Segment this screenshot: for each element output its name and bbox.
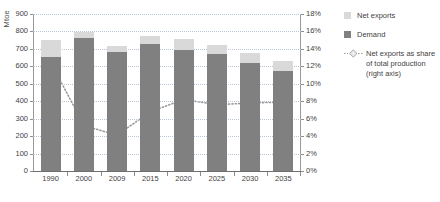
bar-segment-net-exports[interactable]	[207, 45, 227, 54]
y-axis-tick-label: 800	[15, 27, 28, 35]
y2-axis-tick	[301, 154, 304, 155]
y-axis-tick-label: 0	[24, 167, 28, 175]
legend-label-net-exports-share: Net exports as share of total production…	[366, 49, 435, 79]
y-axis-title: Mtoe	[2, 10, 11, 27]
y2-axis-tick-label: 8%	[306, 97, 317, 105]
y-axis-tick-label: 600	[15, 62, 28, 70]
y2-axis-tick	[301, 66, 304, 67]
y2-axis-tick	[301, 14, 304, 15]
y-axis-tick-label: 700	[15, 45, 28, 53]
left-axis-line	[33, 14, 34, 172]
bar-segment-net-exports[interactable]	[107, 46, 127, 52]
y-axis-tick	[30, 31, 33, 32]
bar-segment-demand[interactable]	[240, 63, 260, 171]
y2-axis-tick	[301, 84, 304, 85]
y-axis-tick	[30, 171, 33, 172]
y2-axis-tick-label: 12%	[306, 62, 321, 70]
bar-segment-demand[interactable]	[74, 38, 94, 171]
bar-group[interactable]	[107, 46, 127, 171]
plot-area: 01002003004005006007008009000%2%4%6%8%10…	[33, 14, 301, 172]
legend-marker-diamond-icon	[344, 49, 363, 58]
bar-segment-demand[interactable]	[174, 50, 194, 171]
legend-item-net-exports: Net exports	[344, 11, 438, 21]
legend-label-demand: Demand	[357, 30, 385, 40]
legend-label-line-3: (right axis)	[366, 69, 401, 78]
bar-segment-demand[interactable]	[140, 44, 160, 171]
legend-swatch-demand	[344, 31, 351, 38]
right-axis-line	[300, 14, 301, 172]
bar-segment-net-exports[interactable]	[240, 53, 260, 63]
legend-label-line-2: of total production	[366, 59, 426, 68]
y2-axis-tick-label: 2%	[306, 150, 317, 158]
y-axis-tick	[30, 136, 33, 137]
y2-axis-tick-label: 16%	[306, 27, 321, 35]
bar-group[interactable]	[174, 39, 194, 171]
y-axis-tick	[30, 101, 33, 102]
legend-label-net-exports: Net exports	[357, 11, 395, 21]
gridline	[33, 14, 301, 15]
y2-axis-tick	[301, 136, 304, 137]
chart-container: Mtoe 01002003004005006007008009000%2%4%6…	[0, 0, 440, 202]
x-axis-tick-label: 2035	[263, 175, 303, 183]
y2-axis-tick-label: 6%	[306, 115, 317, 123]
bar-segment-net-exports[interactable]	[74, 32, 94, 38]
bar-group[interactable]	[240, 53, 260, 171]
y-axis-tick-label: 900	[15, 10, 28, 18]
y2-axis-tick	[301, 101, 304, 102]
chart-legend: Net exports Demand Net exports as share …	[344, 11, 438, 88]
y2-axis-tick-label: 14%	[306, 45, 321, 53]
y-axis-tick	[30, 49, 33, 50]
legend-swatch-net-exports	[344, 12, 351, 19]
legend-item-net-exports-share: Net exports as share of total production…	[344, 49, 438, 79]
y-axis-tick-label: 100	[15, 150, 28, 158]
y-axis-tick	[30, 119, 33, 120]
bar-segment-demand[interactable]	[41, 57, 61, 171]
bar-group[interactable]	[140, 36, 160, 171]
bar-group[interactable]	[207, 45, 227, 171]
y2-axis-tick-label: 18%	[306, 10, 321, 18]
y2-axis-tick	[301, 171, 304, 172]
bar-group[interactable]	[273, 61, 293, 171]
y2-axis-tick	[301, 31, 304, 32]
legend-item-demand: Demand	[344, 30, 438, 40]
y2-axis-tick-label: 4%	[306, 132, 317, 140]
bar-segment-net-exports[interactable]	[174, 39, 194, 50]
bar-group[interactable]	[74, 32, 94, 171]
y-axis-tick-label: 400	[15, 97, 28, 105]
bar-segment-net-exports[interactable]	[41, 40, 61, 57]
y2-axis-tick	[301, 119, 304, 120]
y2-axis-tick-label: 10%	[306, 80, 321, 88]
y-axis-tick	[30, 14, 33, 15]
y-axis-tick-label: 200	[15, 132, 28, 140]
bar-segment-demand[interactable]	[107, 52, 127, 171]
bar-segment-demand[interactable]	[207, 54, 227, 171]
y-axis-tick-label: 300	[15, 115, 28, 123]
bar-segment-net-exports[interactable]	[140, 36, 160, 44]
y-axis-tick	[30, 154, 33, 155]
y-axis-tick	[30, 66, 33, 67]
y2-axis-tick	[301, 49, 304, 50]
legend-label-line-1: Net exports as share	[366, 49, 435, 58]
bar-segment-net-exports[interactable]	[273, 61, 293, 71]
bar-segment-demand[interactable]	[273, 71, 293, 171]
bar-group[interactable]	[41, 40, 61, 171]
y-axis-tick	[30, 84, 33, 85]
y2-axis-tick-label: 0%	[306, 167, 317, 175]
y-axis-tick-label: 500	[15, 80, 28, 88]
